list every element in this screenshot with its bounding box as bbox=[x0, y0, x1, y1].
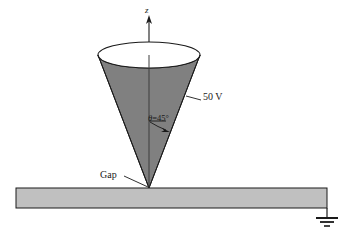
gap-leader-line bbox=[124, 176, 148, 187]
voltage-label: 50 V bbox=[203, 92, 223, 102]
gap-label: Gap bbox=[100, 170, 117, 180]
cone-plate-electrostatics-figure: z 50 V θ=45° Gap bbox=[0, 0, 354, 234]
z-axis-label: z bbox=[145, 6, 149, 15]
ground-plate bbox=[16, 188, 327, 208]
figure-canvas bbox=[0, 0, 354, 234]
angle-label: θ=45° bbox=[148, 114, 169, 123]
angle-value: 45° bbox=[157, 113, 169, 123]
voltage-leader-line bbox=[186, 96, 201, 100]
ground-symbol bbox=[316, 218, 338, 226]
